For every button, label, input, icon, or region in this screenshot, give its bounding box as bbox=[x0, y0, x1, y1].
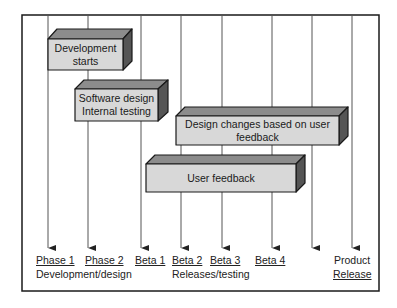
box-text-software-design: Software design Internal testing bbox=[75, 89, 158, 121]
box-line2: Internal testing bbox=[82, 105, 151, 118]
box-line2: starts bbox=[73, 55, 99, 68]
milestone-beta4: Beta 4 bbox=[255, 254, 285, 266]
milestone-phase1: Phase 1 bbox=[36, 254, 75, 266]
milestone-product: Product bbox=[334, 254, 370, 266]
box-text-user-feedback: User feedback bbox=[146, 164, 296, 192]
group-development-design: Development/design bbox=[36, 268, 132, 280]
box-line1: User feedback bbox=[187, 172, 255, 185]
group-releases-testing: Releases/testing bbox=[172, 268, 250, 280]
box-line1: Design changes based on user bbox=[185, 118, 330, 131]
box-text-development-starts: Development starts bbox=[48, 39, 123, 70]
milestone-phase2: Phase 2 bbox=[85, 254, 124, 266]
box-text-design-changes: Design changes based on user feedback bbox=[176, 116, 339, 145]
box-line1: Development bbox=[55, 42, 117, 55]
box-line2: feedback bbox=[236, 131, 279, 144]
milestone-beta2: Beta 2 bbox=[172, 254, 202, 266]
milestone-beta3: Beta 3 bbox=[210, 254, 240, 266]
milestone-release: Release bbox=[333, 268, 372, 280]
box-line1: Software design bbox=[79, 92, 154, 105]
milestone-beta1: Beta 1 bbox=[135, 254, 165, 266]
